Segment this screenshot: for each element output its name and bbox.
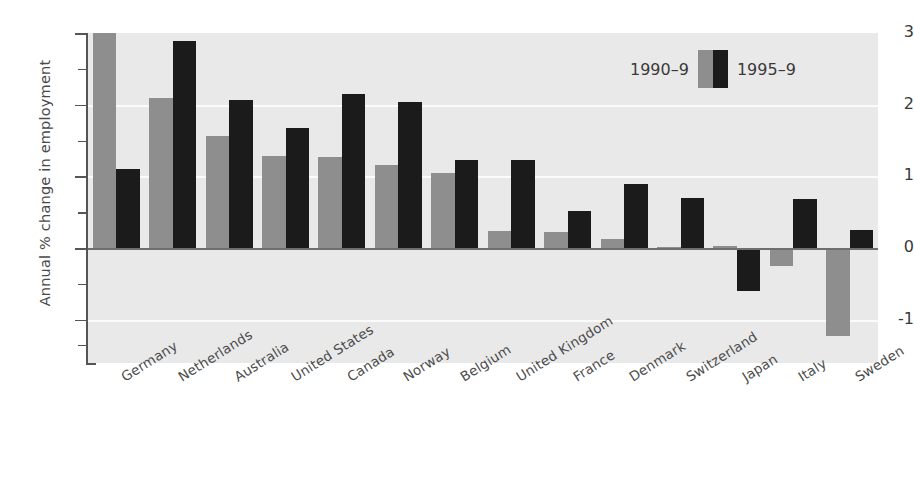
- bar: [601, 239, 625, 248]
- bar: [826, 248, 850, 336]
- y-tick-minor: [78, 212, 86, 213]
- bar: [850, 230, 874, 249]
- bar: [116, 169, 140, 248]
- gridline: [88, 105, 878, 107]
- y-axis-title: Annual % change in employment: [37, 18, 53, 348]
- bar: [737, 248, 761, 291]
- y-tick-major: [75, 248, 86, 250]
- y-tick-major: [75, 320, 86, 322]
- y-tick-minor: [78, 69, 86, 70]
- y-tick-minor: [78, 141, 86, 142]
- bar: [149, 98, 173, 249]
- bar: [286, 128, 310, 248]
- bar: [455, 160, 479, 248]
- y-tick-minor: [78, 345, 86, 346]
- legend-swatch-pair: [698, 50, 728, 88]
- bar: [318, 157, 342, 248]
- bar: [770, 248, 794, 266]
- bar: [93, 33, 117, 248]
- zero-baseline: [88, 248, 878, 250]
- chart-legend: 1990–9 1995–9: [630, 50, 796, 88]
- bar: [624, 184, 648, 249]
- bar: [262, 156, 286, 248]
- bar: [375, 165, 399, 248]
- gridline: [88, 320, 878, 322]
- employment-change-bar-chart: Annual % change in employment 3210-1 Ger…: [0, 0, 914, 498]
- bar: [488, 231, 512, 248]
- bar: [544, 232, 568, 248]
- bar: [568, 211, 592, 248]
- y-tick-major: [75, 176, 86, 178]
- bar: [431, 173, 455, 248]
- y-tick-minor: [78, 284, 86, 285]
- legend-label-1990-9: 1990–9: [630, 60, 689, 79]
- y-tick-major: [75, 33, 86, 35]
- bar: [511, 160, 535, 248]
- y-axis-foot: [86, 363, 96, 365]
- bar: [342, 94, 366, 248]
- bar: [229, 100, 253, 248]
- y-tick-major: [75, 105, 86, 107]
- bar: [206, 136, 230, 249]
- bar: [681, 198, 705, 248]
- bar: [173, 41, 197, 248]
- legend-swatch-1995-9: [713, 50, 728, 88]
- legend-swatch-1990-9: [698, 50, 713, 88]
- legend-label-1995-9: 1995–9: [737, 60, 796, 79]
- bar: [398, 102, 422, 248]
- bar: [793, 199, 817, 248]
